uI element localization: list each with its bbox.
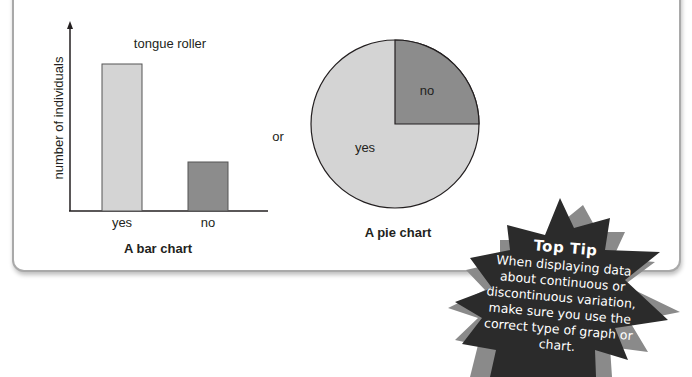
x-tick-yes: yes: [112, 215, 133, 230]
y-axis-label: number of individuals: [51, 56, 66, 179]
x-tick-no: no: [201, 215, 215, 230]
bar-chart-title: tongue roller: [134, 36, 207, 51]
bar-chart-caption: A bar chart: [124, 241, 193, 256]
pie-label-yes: yes: [355, 140, 376, 155]
bar-yes: [102, 64, 142, 211]
y-axis-arrow-icon: [67, 21, 73, 29]
pie-chart-caption: A pie chart: [365, 225, 432, 240]
pie-label-no: no: [420, 83, 434, 98]
pie-slice-no: [395, 40, 479, 124]
or-connector: or: [272, 129, 284, 144]
bar-no: [188, 162, 228, 211]
top-tip-body: When displaying data about continuous or…: [469, 250, 652, 361]
top-tip-text: Top Tip When displaying data about conti…: [431, 184, 692, 364]
top-tip: Top Tip When displaying data about conti…: [440, 195, 692, 377]
bar-chart: tongue roller number of individuals yes …: [51, 21, 268, 256]
